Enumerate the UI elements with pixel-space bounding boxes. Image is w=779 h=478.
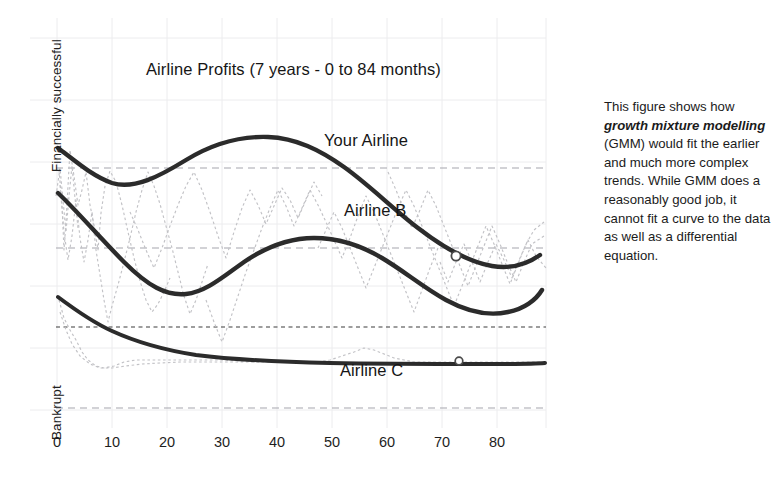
x-tick-40: 40 <box>257 434 297 450</box>
x-tick-20: 20 <box>147 434 187 450</box>
chart-area: Financially successful Bankrupt 0 10 20 … <box>0 0 556 478</box>
caption-part-1: This figure shows how <box>604 99 734 114</box>
curve-airline-b <box>58 193 542 314</box>
y-axis-bottom-label: Bankrupt <box>49 385 64 440</box>
caption-text: This figure shows how growth mixture mod… <box>604 98 772 265</box>
x-tick-70: 70 <box>422 434 462 450</box>
chart-title: Airline Profits (7 years - 0 to 84 month… <box>146 60 441 79</box>
figure-root: Financially successful Bankrupt 0 10 20 … <box>0 0 779 478</box>
caption-part-2: (GMM) would fit the earlier and much mor… <box>604 136 770 263</box>
guide-line-group <box>56 168 546 408</box>
caption-emphasis: growth mixture modelling <box>604 118 765 133</box>
marker-airline-b <box>451 251 460 260</box>
x-tick-30: 30 <box>202 434 242 450</box>
x-tick-0: 0 <box>37 434 77 450</box>
series-label-airline-b: Airline B <box>344 201 406 220</box>
y-axis-top-label: Financially successful <box>49 39 64 172</box>
series-label-airline-c: Airline C <box>340 361 403 380</box>
x-tick-60: 60 <box>367 434 407 450</box>
x-tick-50: 50 <box>312 434 352 450</box>
grid-lines <box>30 18 546 428</box>
marker-airline-c <box>455 357 463 365</box>
curve-airline-c <box>58 297 545 364</box>
x-tick-10: 10 <box>92 434 132 450</box>
x-tick-80: 80 <box>477 434 517 450</box>
series-label-your-airline: Your Airline <box>324 131 408 150</box>
